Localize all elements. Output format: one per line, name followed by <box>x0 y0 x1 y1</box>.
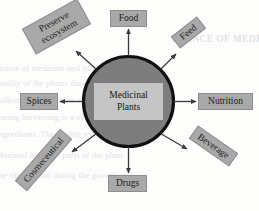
node-food[interactable]: Food <box>110 10 147 27</box>
node-spices-label: Spices <box>27 96 52 107</box>
node-food-label: Food <box>119 13 139 24</box>
node-drugs[interactable]: Drugs <box>108 175 147 192</box>
arrow-to-feed <box>161 54 177 70</box>
arrow-to-cosmeceutical <box>72 134 97 153</box>
hub-label: Medicinal Plants <box>94 83 163 120</box>
diagram-canvas: RTANCE OF MEDICINAL PLANTS source of med… <box>0 0 259 211</box>
node-nutrition[interactable]: Nutrition <box>198 93 253 110</box>
node-drugs-label: Drugs <box>116 178 139 189</box>
hub-label-line1: Medicinal <box>109 90 148 102</box>
node-nutrition-label: Nutrition <box>208 96 243 107</box>
node-spices[interactable]: Spices <box>20 93 58 110</box>
arrow-to-preserve <box>76 51 97 70</box>
hub-label-line2: Plants <box>117 102 140 114</box>
arrow-to-beverage <box>161 134 188 150</box>
